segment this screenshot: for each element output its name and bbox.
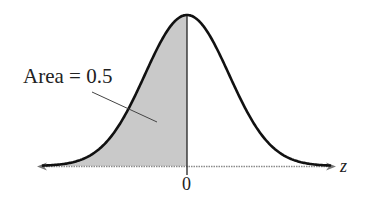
area-label: Area = 0.5	[23, 64, 112, 88]
z-axis-label: z	[339, 156, 347, 176]
normal-distribution-chart: Area = 0.5 z 0	[0, 0, 367, 198]
shaded-area-left-of-zero	[43, 15, 187, 166]
zero-tick-label: 0	[182, 174, 191, 194]
